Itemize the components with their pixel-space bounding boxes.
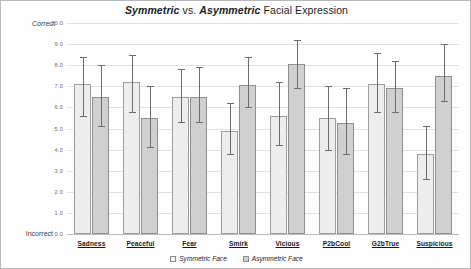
error-bar-cap [276,82,283,83]
error-bar [150,86,151,147]
legend-label: Symmetric Face [179,255,227,262]
legend-item[interactable]: Symmetric Face [170,255,227,262]
error-bar-cap [196,122,203,123]
gridline [67,44,459,45]
error-bar-cap [178,122,185,123]
error-bar [248,57,249,108]
error-bar [346,88,347,153]
dark-gray-swatch [243,256,249,262]
gridline [67,23,459,24]
error-bar-cap [423,126,430,127]
error-bar-cap [227,103,234,104]
error-bar-cap [423,179,430,180]
error-bar-cap [147,86,154,87]
error-bar [297,40,298,89]
error-bar-cap [325,86,332,87]
error-bar-cap [374,53,381,54]
error-bar-cap [227,154,234,155]
error-bar-cap [129,112,136,113]
plot-area [67,23,459,234]
error-bar [279,82,280,145]
error-bar-cap [178,69,185,70]
error-bar [377,53,378,112]
error-bar-cap [276,145,283,146]
chart-legend: Symmetric FaceAsymmetric Face [1,255,471,262]
error-bar-cap [343,154,350,155]
y-axis-tick-label: 3.0 [37,168,63,174]
error-bar-cap [294,40,301,41]
error-bar [132,55,133,112]
error-bar-cap [392,112,399,113]
chart-title-emphasis-symmetric: Symmetric [125,4,180,16]
error-bar-cap [98,126,105,127]
y-axis-tick-label: 10.0 [37,20,63,26]
gridline [67,65,459,66]
error-bar-cap [129,55,136,56]
error-bar-cap [98,65,105,66]
error-bar [395,61,396,112]
legend-item[interactable]: Asymmetric Face [243,255,303,262]
error-bar-cap [441,101,448,102]
y-axis-tick-label: 5.0 [37,126,63,132]
y-axis-tick-label: 9.0 [37,41,63,47]
y-axis-tick-label: 1.0 [37,210,63,216]
error-bar [199,67,200,122]
error-bar [444,44,445,101]
legend-label: Asymmetric Face [252,255,303,262]
y-axis-tick-label: 7.0 [37,83,63,89]
gridline [67,234,459,235]
chart-title-emphasis-asymmetric: Asymmetric [199,4,260,16]
error-bar-cap [80,116,87,117]
error-bar-cap [294,88,301,89]
y-axis-tick-label: 0.0 [37,231,63,237]
chart-figure: Symmetric vs. Asymmetric Facial Expressi… [0,0,471,269]
x-axis-category-label: Suspicious [404,240,466,247]
error-bar [328,86,329,149]
chart-title-connector: vs. [180,4,200,16]
error-bar-cap [245,57,252,58]
error-bar-cap [441,44,448,45]
light-gray-swatch [170,256,176,262]
y-axis-tick-label: 6.0 [37,104,63,110]
y-axis-tick-label: 4.0 [37,147,63,153]
error-bar-cap [245,107,252,108]
error-bar-cap [196,67,203,68]
error-bar-cap [343,88,350,89]
bar [288,64,305,234]
error-bar [101,65,102,126]
y-axis-tick-label: 8.0 [37,62,63,68]
error-bar-cap [147,147,154,148]
chart-title-suffix: Facial Expression [260,4,348,16]
error-bar [181,69,182,122]
y-axis-tick-label: 2.0 [37,189,63,195]
error-bar-cap [374,112,381,113]
error-bar [230,103,231,154]
error-bar-cap [325,150,332,151]
error-bar-cap [392,61,399,62]
chart-title: Symmetric vs. Asymmetric Facial Expressi… [1,4,471,16]
error-bar [83,57,84,116]
error-bar [426,126,427,179]
error-bar-cap [80,57,87,58]
